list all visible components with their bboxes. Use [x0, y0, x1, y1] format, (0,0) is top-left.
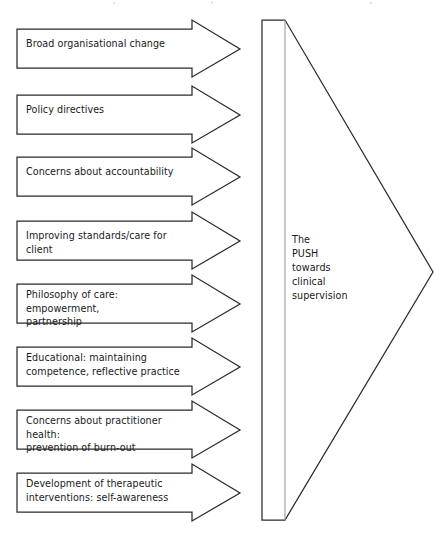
driver-arrow-3[interactable] — [17, 148, 240, 205]
diagram-canvas — [0, 0, 447, 536]
driver-arrow-4[interactable] — [17, 212, 240, 269]
driver-arrow-2[interactable] — [17, 86, 240, 143]
driver-arrow-1[interactable] — [17, 20, 240, 77]
scan-artifact — [113, 2, 115, 4]
driver-arrow-5[interactable] — [17, 275, 240, 332]
driver-arrow-6[interactable] — [17, 338, 240, 395]
push-towards-clinical-supervision-diagram: Broad organisational change Policy direc… — [0, 0, 447, 536]
driver-arrow-8[interactable] — [17, 464, 240, 521]
scan-artifact — [370, 2, 372, 4]
driver-arrow-7[interactable] — [17, 401, 240, 458]
push-wedge-label: The PUSH towards clinical supervision — [292, 233, 348, 303]
scan-artifact — [211, 1, 213, 4]
